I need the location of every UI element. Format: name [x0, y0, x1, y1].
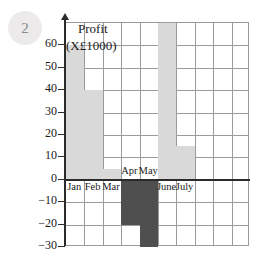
- y-axis-tick: [58, 44, 65, 45]
- y-axis-tick-label: 50: [1, 59, 57, 74]
- y-axis-tick: [58, 156, 65, 157]
- bar-june: [158, 23, 176, 180]
- y-axis-tick-label: −20: [1, 216, 57, 231]
- gridline-horizontal: [66, 68, 248, 69]
- month-label-feb: Feb: [83, 181, 101, 192]
- month-label-june: June: [157, 181, 175, 192]
- plot-area: [65, 22, 249, 246]
- gridline-vertical: [176, 23, 177, 245]
- month-label-may: May: [139, 165, 157, 176]
- y-axis-tick-label: 0: [1, 171, 57, 186]
- month-label-jan: Jan: [65, 181, 83, 192]
- bar-chart-figure: 6050403020100−10−20−30 JanFebMarAprMayJu…: [0, 0, 263, 256]
- bar-may: [140, 180, 158, 247]
- month-label-apr: Apr: [120, 165, 138, 176]
- bar-apr: [121, 180, 139, 225]
- y-axis-tick-label: 20: [1, 126, 57, 141]
- bar-feb: [84, 90, 102, 180]
- y-axis-tick: [58, 89, 65, 90]
- month-label-july: July: [175, 181, 193, 192]
- y-axis-tick-label: 40: [1, 81, 57, 96]
- y-axis-tick: [58, 179, 65, 180]
- gridline-vertical: [213, 23, 214, 245]
- bar-jan: [66, 45, 84, 179]
- gridline-vertical: [232, 23, 233, 245]
- y-axis-tick: [58, 246, 65, 247]
- y-axis-tick: [58, 134, 65, 135]
- y-axis-tick: [58, 224, 65, 225]
- y-axis-tick-label: 10: [1, 148, 57, 163]
- y-axis-tick-label: 30: [1, 104, 57, 119]
- month-label-mar: Mar: [102, 181, 120, 192]
- y-axis-tick: [58, 201, 65, 202]
- y-axis-tick-label: −10: [1, 193, 57, 208]
- gridline-vertical: [195, 23, 196, 245]
- y-axis-tick-label: 60: [1, 36, 57, 51]
- gridline-vertical: [103, 23, 104, 245]
- y-axis-arrow-icon: [61, 13, 69, 20]
- chart-title: Profit: [78, 21, 108, 37]
- y-axis-tick-label: −30: [1, 238, 57, 253]
- y-axis-tick: [58, 67, 65, 68]
- y-axis-tick-labels: 6050403020100−10−20−30: [0, 0, 57, 256]
- bar-july: [176, 146, 194, 180]
- chart-subtitle: (X£1000): [66, 38, 117, 54]
- y-axis-tick: [58, 112, 65, 113]
